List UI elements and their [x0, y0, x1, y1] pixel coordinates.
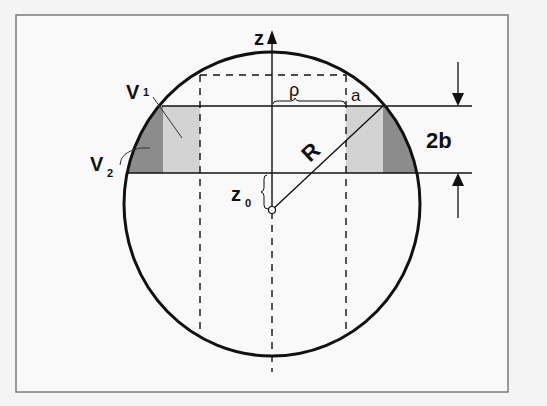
v1-subscript: 1 — [143, 86, 149, 98]
z-axis-label: z — [254, 27, 264, 49]
v2-label: V — [90, 153, 104, 175]
a-label: a — [351, 86, 361, 105]
v1-left-light — [163, 106, 200, 173]
frame — [16, 15, 508, 392]
v1-label: V — [126, 81, 140, 103]
2b-label: 2b — [426, 128, 452, 153]
center-point — [269, 207, 276, 214]
v2-subscript: 2 — [107, 167, 113, 179]
rho-label: ρ — [289, 80, 299, 100]
sphere-band-diagram: z ρ a R 2b z 0 V 1 V 2 — [0, 0, 547, 406]
z0-label: z — [231, 183, 241, 205]
v1-right-light — [346, 106, 383, 173]
z0-subscript: 0 — [245, 197, 251, 209]
